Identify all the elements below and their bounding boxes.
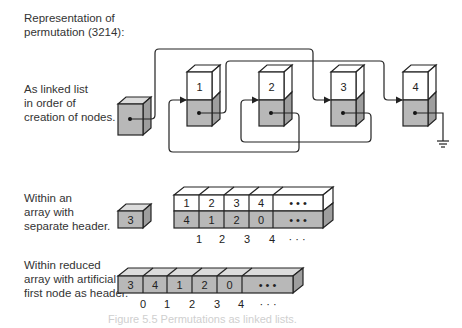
reduced-index-2: 2	[189, 298, 195, 310]
index-2: 2	[219, 233, 225, 245]
reduced-cell-ellipsis: • • •	[259, 279, 277, 291]
index-ellipsis: · · ·	[288, 233, 305, 245]
reduced-cell-0: 3	[127, 279, 133, 291]
header-node	[118, 97, 151, 135]
diagram-canvas: 1 2 3 4	[0, 0, 462, 328]
node-4-value: 4	[412, 81, 418, 93]
reduced-index-0: 0	[140, 298, 146, 310]
ground-icon	[437, 141, 449, 147]
index-3: 3	[244, 233, 250, 245]
node-2-value: 2	[268, 81, 274, 93]
bottom-cell-1: 4	[183, 214, 189, 226]
figure-caption: Figure 5.5 Permutations as linked lists.	[108, 313, 297, 325]
list-node-2: 2	[259, 65, 292, 126]
index-4: 4	[269, 233, 275, 245]
list-node-3: 3	[331, 65, 364, 126]
reduced-index-3: 3	[214, 298, 220, 310]
list-node-4: 4	[403, 65, 436, 126]
list-node-1: 1	[187, 65, 220, 126]
bottom-cell-3: 2	[233, 214, 239, 226]
separate-header-array: 1 2 3 4 • • • 4 1 2 0 • • • 1 2 3 4 · · …	[174, 187, 333, 245]
top-cell-ellipsis: • • •	[289, 197, 307, 209]
bottom-cell-4: 0	[258, 214, 264, 226]
bottom-cell-2: 1	[208, 214, 214, 226]
reduced-cell-4: 0	[226, 279, 232, 291]
separate-header-value: 3	[127, 214, 133, 226]
separate-header-cube: 3	[118, 204, 151, 228]
reduced-cell-3: 2	[201, 279, 207, 291]
top-cell-2: 2	[208, 197, 214, 209]
index-1: 1	[196, 233, 202, 245]
reduced-cell-2: 1	[176, 279, 182, 291]
reduced-cell-1: 4	[152, 279, 158, 291]
node-3-value: 3	[340, 81, 346, 93]
bottom-cell-ellipsis: • • •	[289, 214, 307, 226]
top-cell-4: 4	[258, 197, 264, 209]
top-cell-1: 1	[183, 197, 189, 209]
reduced-index-1: 1	[164, 298, 170, 310]
reduced-array: 3 4 1 2 0 • • • 0 1 2 3 4 · · ·	[118, 268, 303, 310]
node-1-value: 1	[196, 81, 202, 93]
reduced-index-ellipsis: · · ·	[259, 298, 276, 310]
reduced-index-4: 4	[238, 298, 244, 310]
top-cell-3: 3	[233, 197, 239, 209]
